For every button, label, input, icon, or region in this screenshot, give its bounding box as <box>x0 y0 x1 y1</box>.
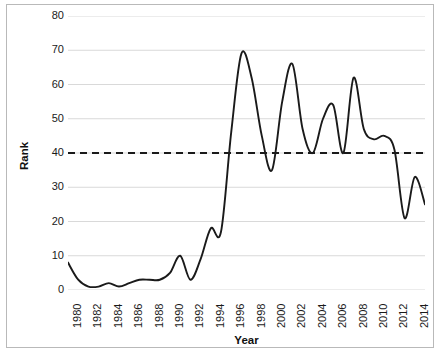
y-tick-label: 60 <box>30 79 64 90</box>
y-tick-label: 70 <box>30 44 64 55</box>
y-tick-label: 10 <box>30 250 64 261</box>
y-tick-label: 20 <box>30 216 64 227</box>
x-tick-label: 1982 <box>92 304 103 328</box>
x-tick-label: 2014 <box>419 304 430 328</box>
x-axis-title: Year <box>68 334 425 346</box>
y-tick-label: 40 <box>30 147 64 158</box>
y-tick-label: 80 <box>30 10 64 21</box>
y-tick-label: 50 <box>30 113 64 124</box>
x-tick-label: 1990 <box>174 304 185 328</box>
x-tick-label: 1986 <box>133 304 144 328</box>
y-tick-label: 0 <box>30 284 64 295</box>
x-tick-label: 1988 <box>154 304 165 328</box>
x-tick-label: 1998 <box>256 304 267 328</box>
x-tick-label: 1984 <box>113 304 124 328</box>
x-tick-label: 2004 <box>317 304 328 328</box>
x-tick-label: 2006 <box>337 304 348 328</box>
chart-figure: Rank 01020304050607080 19801982198419861… <box>0 0 440 352</box>
x-tick-label: 2010 <box>378 304 389 328</box>
x-tick-label: 1980 <box>72 304 83 328</box>
y-tick-label: 30 <box>30 181 64 192</box>
x-tick-label: 2008 <box>358 304 369 328</box>
x-tick-label: 2000 <box>276 304 287 328</box>
plot-area <box>68 16 425 290</box>
x-tick-label: 1994 <box>215 304 226 328</box>
x-tick-label: 2012 <box>398 304 409 328</box>
y-axis-tick-labels: 01020304050607080 <box>20 0 64 306</box>
x-tick-label: 2002 <box>296 304 307 328</box>
data-series-line <box>68 51 425 287</box>
line-chart-svg <box>68 16 425 290</box>
x-tick-label: 1992 <box>194 304 205 328</box>
x-tick-label: 1996 <box>235 304 246 328</box>
